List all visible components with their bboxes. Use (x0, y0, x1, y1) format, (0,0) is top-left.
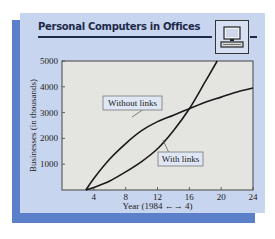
plot-area (62, 61, 253, 190)
callout-label-without-links: Without links (108, 98, 157, 108)
callout-label-with-links: With links (162, 154, 200, 164)
y-tick-label: 4000 (40, 82, 59, 92)
y-tick-label: 1000 (40, 159, 59, 169)
y-tick-label: 5000 (40, 56, 59, 66)
x-tick-label: 20 (217, 192, 227, 202)
line-chart: 481216202410002000300040005000Year (1984… (0, 0, 275, 239)
y-axis-label: Businesses (in thousands) (28, 79, 38, 172)
x-tick-label: 4 (92, 192, 97, 202)
x-tick-label: 24 (249, 192, 259, 202)
x-axis-label: Year (1984 ←→ 4) (123, 201, 193, 211)
y-tick-label: 2000 (40, 133, 59, 143)
y-tick-label: 3000 (40, 108, 59, 118)
